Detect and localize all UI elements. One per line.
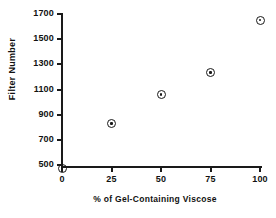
x-axis-title: % of Gel-Containing Viscose xyxy=(40,194,270,204)
y-axis-tick xyxy=(57,114,61,116)
chart-figure: 5007009001100130015001700 0255075100 Fil… xyxy=(0,0,276,218)
x-axis-tick-label: 100 xyxy=(240,174,276,184)
y-axis-tick xyxy=(57,63,61,65)
x-axis-tick xyxy=(160,168,162,172)
y-axis-tick-label: 1100 xyxy=(34,85,54,94)
x-axis-tick-label: 50 xyxy=(141,174,181,184)
x-axis-tick xyxy=(259,168,261,172)
y-axis-tick-label: 700 xyxy=(38,135,54,144)
x-axis-tick xyxy=(210,168,212,172)
y-axis-tick xyxy=(57,139,61,141)
x-axis-tick-label: 25 xyxy=(92,174,132,184)
y-axis-tick xyxy=(57,38,61,40)
data-point xyxy=(107,119,116,128)
x-axis-tick xyxy=(111,168,113,172)
y-axis-tick-label: 1300 xyxy=(33,59,54,68)
y-axis-tick-label: 1500 xyxy=(33,34,54,43)
y-axis-tick-label: 900 xyxy=(38,110,54,119)
data-point xyxy=(256,16,265,25)
y-axis-title: Filter Number xyxy=(7,21,17,117)
data-point xyxy=(58,164,67,173)
data-point xyxy=(157,90,166,99)
plot-area xyxy=(62,14,260,167)
data-point xyxy=(206,68,215,77)
y-axis-tick-label: 1700 xyxy=(33,9,54,18)
y-axis-tick-label-wrap: 500 xyxy=(0,160,54,170)
x-axis-tick-label: 0 xyxy=(42,174,82,184)
y-axis-tick xyxy=(57,89,61,91)
y-axis-tick-label-wrap: 700 xyxy=(0,135,54,145)
y-axis-tick-label: 500 xyxy=(38,160,54,169)
y-axis-tick-label-wrap: 1700 xyxy=(0,9,54,19)
x-axis-tick-label: 75 xyxy=(191,174,231,184)
y-axis-tick xyxy=(57,13,61,15)
